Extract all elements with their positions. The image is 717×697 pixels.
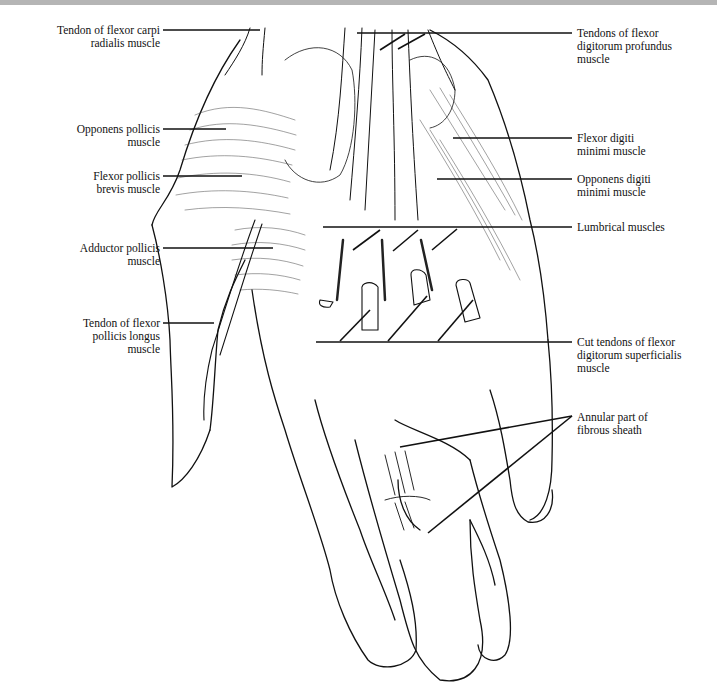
label-flexor-digitorum-profundus-tendons: Tendons of flexor digitorum profundus mu… <box>577 27 672 66</box>
leader-ann <box>400 416 572 533</box>
label-flexor-pollicis-longus-tendon: Tendon of flexor pollicis longus muscle <box>2 317 160 356</box>
label-flexor-digiti-minimi: Flexor digiti minimi muscle <box>577 132 646 158</box>
label-opponens-pollicis: Opponens pollicis muscle <box>2 123 160 149</box>
label-opponens-digiti-minimi: Opponens digiti minimi muscle <box>577 173 651 199</box>
label-flexor-pollicis-brevis: Flexor pollicis brevis muscle <box>2 170 160 196</box>
label-lumbrical-muscles: Lumbrical muscles <box>577 221 665 234</box>
label-adductor-pollicis: Adductor pollicis muscle <box>2 242 160 268</box>
leader-fdp <box>357 33 572 50</box>
leader-lum <box>323 227 572 251</box>
label-annular-fibrous-sheath: Annular part of fibrous sheath <box>577 411 648 437</box>
label-flexor-carpi-radialis-tendon: Tendon of flexor carpi radialis muscle <box>2 24 160 50</box>
label-flexor-digitorum-superficialis-cut-tendons: Cut tendons of flexor digitorum superfic… <box>577 336 681 375</box>
leader-fds <box>316 296 572 342</box>
